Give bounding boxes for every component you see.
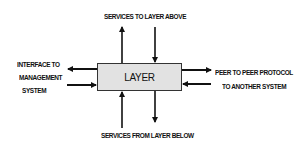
layer-box: LAYER xyxy=(97,63,182,91)
label-services-to-layer-above: SERVICES TO LAYER ABOVE xyxy=(104,13,186,20)
label-services-from-layer-below: SERVICES FROM LAYER BELOW xyxy=(101,132,194,139)
layer-box-label: LAYER xyxy=(124,72,155,83)
label-interface-line-2: MANAGEMENT xyxy=(19,74,62,81)
label-peer-protocol-line-1: PEER TO PEER PROTOCOL xyxy=(215,69,293,76)
label-interface-line-3: SYSTEM xyxy=(22,87,46,94)
layer-diagram: LAYER SERVICES TO LAYER ABOVE SERVICES F… xyxy=(0,0,306,150)
label-interface-line-1: INTERFACE TO xyxy=(17,61,60,68)
label-peer-protocol-line-2: TO ANOTHER SYSTEM xyxy=(222,83,286,90)
